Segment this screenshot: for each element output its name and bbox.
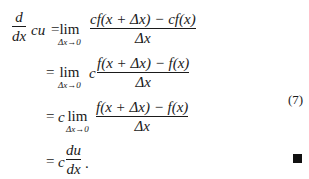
limit-3: lim Δx→0 — [66, 109, 89, 134]
fraction-numerator: f(x + Δx) − f(x) — [96, 99, 188, 115]
fraction-bar — [66, 159, 81, 160]
fraction-3: f(x + Δx) − f(x) Δx — [96, 99, 188, 134]
fraction-bar — [96, 116, 188, 117]
constant-c: c — [58, 109, 65, 125]
limit-word: lim — [59, 65, 79, 80]
fraction-denominator: Δx — [135, 30, 150, 46]
derivative-operator: d dx — [12, 9, 26, 44]
fraction-du-dx: du dx — [66, 142, 81, 177]
constant-c: c — [89, 65, 96, 81]
limit-subscript: Δx→0 — [58, 37, 81, 47]
equation-number: (7) — [288, 92, 303, 108]
lhs-cu: cu — [31, 22, 45, 38]
period: . — [85, 155, 89, 171]
fraction-bar — [90, 28, 196, 29]
limit-subscript: Δx→0 — [66, 124, 89, 134]
equals-sign-4: = — [46, 153, 54, 169]
fraction-denominator: Δx — [135, 74, 150, 90]
fraction-denominator: dx — [66, 161, 80, 177]
qed-square-icon — [293, 154, 302, 163]
limit-subscript: Δx→0 — [58, 80, 81, 90]
fraction-numerator: f(x + Δx) − f(x) — [97, 55, 189, 71]
limit-word: lim — [59, 22, 79, 37]
limit-2: lim Δx→0 — [58, 65, 81, 90]
fraction-denominator: Δx — [134, 118, 149, 134]
limit-1: lim Δx→0 — [58, 22, 81, 47]
fraction-numerator: du — [66, 142, 81, 158]
fraction-bar — [97, 72, 189, 73]
fraction-2: f(x + Δx) − f(x) Δx — [97, 55, 189, 90]
equals-sign-2: = — [46, 64, 54, 80]
fraction-numerator: cf(x + Δx) − cf(x) — [90, 11, 196, 27]
fraction-bar — [12, 26, 26, 27]
limit-word: lim — [67, 109, 87, 124]
equals-sign-3: = — [46, 108, 54, 124]
derivative-numerator: d — [15, 9, 23, 25]
derivative-denominator: dx — [12, 28, 26, 44]
constant-c: c — [58, 154, 65, 170]
fraction-1: cf(x + Δx) − cf(x) Δx — [90, 11, 196, 46]
